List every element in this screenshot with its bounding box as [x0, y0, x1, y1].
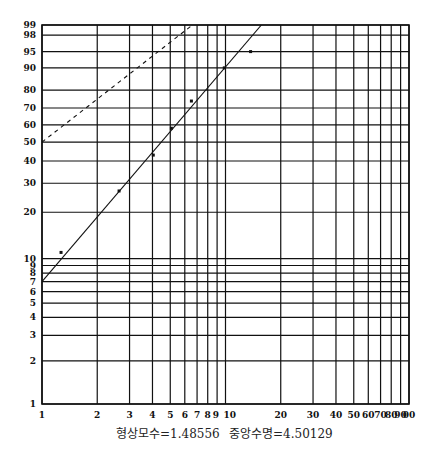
y-tick-label: 3	[30, 330, 36, 340]
y-tick-label: 40	[23, 156, 36, 166]
x-tick-label: 00	[403, 410, 416, 420]
fitted-line	[42, 25, 261, 282]
x-tick-label: 1	[39, 410, 45, 420]
y-tick-label: 4	[30, 312, 36, 322]
x-tick-label: 6	[182, 410, 188, 420]
data-series	[42, 25, 261, 282]
y-tick-label: 30	[23, 178, 36, 188]
x-tick-label: 8	[205, 410, 211, 420]
y-tick-label: 2	[30, 356, 36, 366]
x-tick-label: 10	[224, 410, 237, 420]
shape-parameter-label: 형상모수=1.48556	[116, 424, 220, 441]
y-tick-label: 60	[23, 120, 36, 130]
data-point	[249, 50, 252, 53]
x-tick-label: 4	[149, 410, 155, 420]
x-tick-label: 3	[126, 410, 132, 420]
x-tick-label: 30	[307, 410, 320, 420]
y-tick-label: 50	[23, 137, 36, 147]
grid-lines	[42, 25, 409, 404]
y-tick-label: 5	[30, 298, 36, 308]
x-tick-label: 9	[213, 410, 219, 420]
y-axis-labels: 123456789102030405060708090959899	[23, 20, 36, 409]
y-tick-label: 98	[23, 30, 36, 40]
x-axis-labels: 12345678910203040506070809000	[39, 410, 415, 420]
y-tick-label: 6	[30, 287, 36, 297]
x-tick-label: 40	[330, 410, 343, 420]
y-tick-label: 70	[23, 103, 36, 113]
data-point	[152, 154, 155, 157]
weibull-probability-chart: 123456789102030405060708090959899 123456…	[0, 0, 436, 460]
y-tick-label: 7	[30, 277, 36, 287]
y-tick-label: 10	[23, 254, 36, 264]
x-tick-label: 50	[347, 410, 360, 420]
x-tick-label: 7	[194, 410, 200, 420]
data-point	[190, 100, 193, 103]
median-life-label: 중앙수명=4.50129	[229, 424, 333, 441]
y-tick-label: 90	[23, 63, 36, 73]
y-tick-label: 20	[23, 207, 36, 217]
x-tick-label: 20	[274, 410, 287, 420]
data-point	[60, 251, 63, 254]
x-tick-label: 2	[94, 410, 100, 420]
x-tick-label: 60	[362, 410, 375, 420]
y-tick-label: 99	[23, 20, 36, 30]
y-tick-label: 95	[23, 47, 36, 57]
x-tick-label: 5	[167, 410, 173, 420]
y-tick-label: 1	[30, 399, 36, 409]
y-tick-label: 80	[23, 85, 36, 95]
